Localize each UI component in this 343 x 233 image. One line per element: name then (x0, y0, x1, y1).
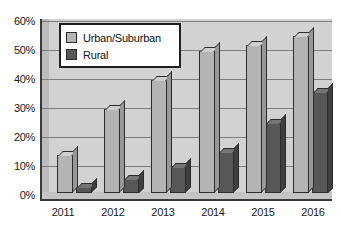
bar (312, 92, 328, 194)
legend-item-urban-suburban: Urban/Suburban (66, 29, 174, 46)
bar-side-face (309, 27, 314, 192)
bar (57, 155, 73, 193)
bar-group (191, 19, 238, 193)
x-axis-tick-label: 2013 (138, 206, 188, 224)
x-axis-tick-label: 2014 (188, 206, 238, 224)
y-axis-tick-label: 20% (1, 132, 35, 142)
plot-floor (42, 192, 332, 199)
bar-side-face (186, 158, 191, 192)
y-axis-tick-label: 0% (1, 190, 35, 200)
bar-side-face (234, 143, 239, 192)
bar (246, 45, 262, 193)
x-axis-tick-label: 2012 (88, 206, 138, 224)
bar (199, 51, 215, 193)
bar-side-face (262, 36, 267, 192)
legend: Urban/Suburban Rural (59, 23, 181, 68)
y-axis-tick-label: 40% (1, 74, 35, 84)
bar-side-face (328, 83, 333, 193)
bar (123, 179, 139, 194)
legend-item-rural: Rural (66, 46, 174, 63)
bar-side-face (73, 146, 78, 192)
bar (293, 36, 309, 193)
bar-group (285, 19, 332, 193)
y-axis-tick-label: 60% (1, 16, 35, 26)
bar (151, 80, 167, 193)
legend-swatch-icon-urban-suburban (66, 32, 77, 43)
bar-side-face (281, 114, 286, 192)
bar-side-face (167, 71, 172, 192)
y-axis-tick-label: 50% (1, 45, 35, 55)
x-axis: 201120122013201420152016 (38, 206, 338, 224)
x-axis-tick-label: 2015 (238, 206, 288, 224)
x-axis-tick-label: 2011 (38, 206, 88, 224)
bar-group (238, 19, 285, 193)
legend-label-rural: Rural (83, 49, 108, 61)
bar-chart: 0%10%20%30%40%50%60% Urban/Suburban Rura… (0, 0, 343, 233)
bar (265, 123, 281, 193)
y-axis: 0%10%20%30%40%50%60% (0, 0, 35, 233)
y-axis-tick-label: 30% (1, 103, 35, 113)
bar (104, 109, 120, 193)
legend-swatch-icon-rural (66, 49, 77, 60)
bar-side-face (120, 100, 125, 192)
x-axis-tick-label: 2016 (288, 206, 338, 224)
plot-depth-wall (42, 19, 49, 199)
legend-label-urban-suburban: Urban/Suburban (83, 32, 161, 44)
bar (76, 187, 92, 193)
bar (170, 167, 186, 193)
y-axis-tick-label: 10% (1, 161, 35, 171)
bar-side-face (215, 42, 220, 192)
